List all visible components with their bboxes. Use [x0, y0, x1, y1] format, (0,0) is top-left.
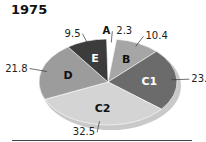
slice-value-label: 32.5: [73, 126, 95, 137]
slice-value-label: 23.5: [191, 73, 206, 84]
slice-category-label: D: [64, 69, 73, 82]
slice-value-label: 10.4: [146, 30, 168, 41]
slice-category-label: E: [91, 52, 99, 65]
slice-category-label: A: [102, 25, 110, 36]
pie-chart: 2.3AB10.4C123.5C232.5D21.8E9.5: [0, 0, 206, 142]
slice-category-label: B: [122, 53, 130, 66]
slice-value-label: 9.5: [65, 28, 81, 39]
slice-category-label: C2: [95, 102, 111, 115]
slice-value-label: 21.8: [5, 63, 27, 74]
slice-category-label: C1: [141, 75, 157, 88]
slice-value-label: 2.3: [116, 25, 132, 36]
bottom-rule: [12, 140, 192, 141]
